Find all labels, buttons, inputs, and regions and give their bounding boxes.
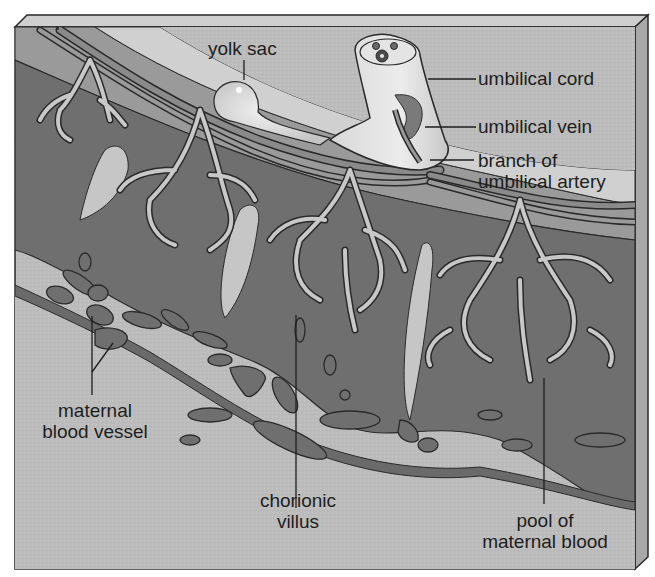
label-branch-line2: umbilical artery bbox=[478, 171, 606, 192]
label-chorionic-villus: chorionic villus bbox=[248, 490, 348, 532]
label-branch-line1: branch of bbox=[478, 150, 606, 171]
block-right-side bbox=[635, 15, 648, 569]
label-chorionic-line1: chorionic bbox=[248, 490, 348, 511]
cord-cross-section bbox=[360, 39, 416, 65]
label-pool-line2: maternal blood bbox=[470, 531, 620, 552]
label-maternal-blood-vessel: maternal blood vessel bbox=[25, 400, 165, 442]
label-maternal-line2: blood vessel bbox=[25, 421, 165, 442]
label-pool-line1: pool of bbox=[470, 510, 620, 531]
label-chorionic-line2: villus bbox=[248, 511, 348, 532]
label-yolk-sac: yolk sac bbox=[208, 38, 277, 59]
block-top-bevel bbox=[15, 15, 648, 27]
label-umbilical-vein: umbilical vein bbox=[478, 116, 592, 137]
label-umbilical-cord: umbilical cord bbox=[478, 68, 594, 89]
label-pool-of-maternal-blood: pool of maternal blood bbox=[470, 510, 620, 552]
label-branch-of-umbilical-artery: branch of umbilical artery bbox=[478, 150, 606, 192]
label-maternal-line1: maternal bbox=[25, 400, 165, 421]
